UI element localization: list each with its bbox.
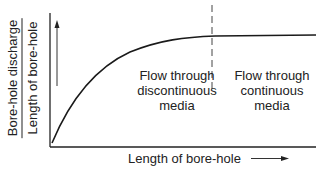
x-axis-label: Length of bore-hole — [122, 151, 247, 166]
region-label-line: continuous — [222, 83, 322, 98]
right-arrow-icon — [251, 156, 289, 161]
y-axis-label: Bore-hole discharge Length of bore-hole — [5, 18, 40, 138]
region-label-discontinuous: Flow through discontinuous media — [122, 68, 232, 113]
region-label-line: Flow through — [122, 68, 232, 83]
region-label-line: Flow through — [222, 68, 322, 83]
region-label-line: media — [222, 98, 322, 113]
y-axis-label-denominator: Length of bore-hole — [23, 18, 40, 138]
up-arrow-icon — [55, 20, 60, 86]
region-label-continuous: Flow through continuous media — [222, 68, 322, 113]
region-label-line: discontinuous — [122, 83, 232, 98]
y-axis-label-numerator: Bore-hole discharge — [5, 18, 23, 138]
region-label-line: media — [122, 98, 232, 113]
